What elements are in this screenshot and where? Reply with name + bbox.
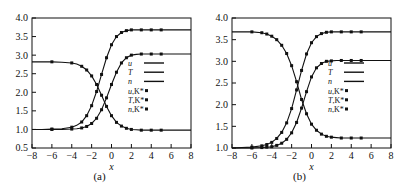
legend-label: T — [128, 68, 133, 77]
series-marker-n — [300, 107, 303, 110]
series-marker-u — [125, 127, 128, 130]
series-marker-u — [120, 125, 123, 128]
series-marker-n — [315, 66, 318, 69]
x-tick-label: 2 — [129, 150, 134, 161]
series-marker-n — [150, 53, 153, 56]
series-marker-n — [100, 108, 103, 111]
legend-marker-sample — [145, 98, 148, 101]
series-marker-u — [150, 129, 153, 132]
x-tick-label: −8 — [27, 150, 38, 161]
plot-a: 0.51.01.52.02.53.03.54.0−8−6−4−202468xuT… — [0, 0, 199, 185]
x-tick-label: 8 — [389, 150, 394, 161]
series-marker-u — [285, 52, 288, 55]
series-marker-u — [260, 31, 263, 34]
legend-marker-sample — [345, 89, 348, 92]
x-tick-label: −2 — [286, 150, 297, 161]
series-marker-u — [325, 135, 328, 138]
series-marker-u — [270, 35, 273, 38]
legend-item-T: T — [128, 68, 164, 77]
series-marker-n — [140, 53, 143, 56]
legend-item-TK: T,K* — [328, 96, 348, 105]
series-marker-n — [320, 62, 323, 65]
series-marker-T — [110, 43, 113, 46]
y-tick-label: 1.5 — [216, 121, 229, 132]
series-marker-n — [310, 75, 313, 78]
series-marker-n — [260, 146, 263, 149]
series-line-T — [232, 32, 391, 148]
legend-item-nK: n,K* — [128, 105, 148, 114]
series-marker-T — [265, 143, 268, 146]
panel-b-caption: (b) — [200, 170, 399, 182]
series-marker-n — [295, 121, 298, 124]
series-marker-T — [305, 52, 308, 55]
legend-label: u — [128, 59, 132, 68]
legend-marker-sample — [345, 108, 348, 111]
series-marker-u — [330, 136, 333, 139]
series-line-u — [32, 62, 191, 130]
x-tick-label: −4 — [66, 150, 77, 161]
series-marker-T — [290, 107, 293, 110]
y-tick-label: 3.0 — [16, 50, 29, 61]
series-marker-n — [290, 131, 293, 134]
y-tick-label: 4.0 — [16, 12, 29, 23]
series-marker-n — [85, 125, 88, 128]
series-line-n — [232, 60, 391, 148]
series-marker-n — [265, 146, 268, 149]
series-marker-u — [315, 129, 318, 132]
series-marker-T — [325, 31, 328, 34]
legend-label: T,K* — [328, 96, 344, 105]
series-marker-T — [115, 35, 118, 38]
series-marker-u — [340, 137, 343, 140]
series-marker-T — [285, 121, 288, 124]
y-tick-label: 2.0 — [16, 87, 29, 98]
series-marker-u — [140, 129, 143, 132]
series-marker-T — [270, 141, 273, 144]
legend-label: u — [328, 59, 332, 68]
series-marker-T — [350, 30, 353, 33]
series-marker-u — [95, 83, 98, 86]
x-tick-label: −8 — [227, 150, 238, 161]
series-marker-n — [340, 59, 343, 62]
series-marker-n — [70, 128, 73, 131]
series-marker-n — [120, 61, 123, 64]
legend-item-n: n — [328, 77, 364, 86]
x-tick-label: −6 — [247, 150, 258, 161]
x-tick-label: 0 — [309, 150, 314, 161]
x-tick-label: −4 — [266, 150, 277, 161]
series-marker-u — [310, 123, 313, 126]
series-marker-u — [295, 80, 298, 83]
series-marker-u — [115, 121, 118, 124]
series-marker-u — [130, 128, 133, 131]
legend-label: u,K* — [128, 87, 144, 96]
x-tick-label: 2 — [329, 150, 334, 161]
series-marker-T — [120, 31, 123, 34]
series-marker-n — [285, 138, 288, 141]
panel-a: 0.51.01.52.02.53.03.54.0−8−6−4−202468xuT… — [0, 0, 199, 185]
series-marker-T — [130, 28, 133, 31]
legend-item-TK: T,K* — [128, 96, 148, 105]
series-marker-T — [315, 35, 318, 38]
series-marker-n — [275, 144, 278, 147]
x-tick-label: 6 — [369, 150, 374, 161]
series-marker-n — [50, 128, 53, 131]
series-marker-T — [275, 137, 278, 140]
series-marker-T — [105, 56, 108, 59]
series-marker-T — [310, 41, 313, 44]
series-marker-T — [90, 104, 93, 107]
x-tick-label: 4 — [149, 150, 154, 161]
series-marker-u — [50, 60, 53, 63]
legend-marker-sample — [145, 108, 148, 111]
series-marker-T — [360, 30, 363, 33]
series-marker-T — [330, 30, 333, 33]
series-line-u — [232, 32, 391, 138]
panel-b: 1.01.52.02.53.03.54.0−8−6−4−202468xuTnu,… — [200, 0, 399, 185]
x-tick-label: −2 — [86, 150, 97, 161]
legend-item-uK: u,K* — [128, 87, 148, 96]
series-marker-T — [95, 90, 98, 93]
y-tick-label: 1.0 — [16, 124, 29, 135]
legend-label: u,K* — [328, 87, 344, 96]
panel-a-caption: (a) — [0, 170, 199, 182]
series-marker-n — [80, 126, 83, 129]
legend-label: n,K* — [128, 105, 144, 114]
series-marker-u — [305, 112, 308, 115]
